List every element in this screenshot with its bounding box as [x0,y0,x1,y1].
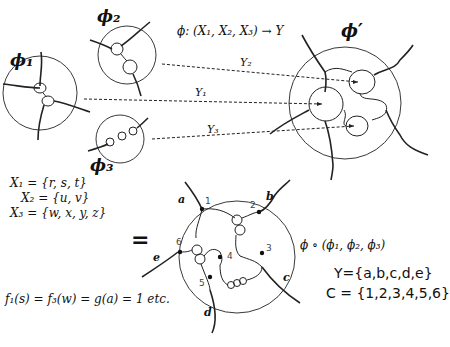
function-equation: f₁(s) = f₃(w) = g(a) = 1 etc. [5,292,170,306]
arrow-label-y3: Y₃ [207,123,219,136]
number-3: 3 [266,243,272,253]
phi-prime-disk [270,35,428,180]
phi1-label: ϕ₁ [10,50,33,70]
phi2-disk [90,22,156,96]
set-x2: X₂ = {u, v} [21,191,89,205]
c-set: C = {1,2,3,4,5,6} [326,285,450,301]
label-c: c [283,271,290,284]
label-a: a [178,193,185,206]
number-6: 6 [176,237,182,247]
composition-label: ϕ ∘ (ϕ₁, ϕ₂, ϕ₃) [300,238,385,252]
arrow-label-y1: Y₁ [195,86,207,99]
arrow-label-y2: Y₂ [240,56,252,69]
number-2: 2 [250,200,256,210]
number-1: 1 [205,196,211,206]
number-5: 5 [199,278,205,288]
set-x1: X₁ = {r, s, t} [10,176,87,190]
phi-prime-label: ϕ′ [341,20,363,41]
y-set: Y={a,b,c,d,e} [334,265,433,281]
dashed-arrows [84,64,358,139]
label-e: e [153,251,160,264]
set-x3: X₃ = {w, x, y, z} [10,206,106,220]
equals-sign: = [131,227,149,252]
label-b: b [266,190,274,203]
phi3-label: ϕ₃ [90,155,113,175]
label-d: d [204,306,212,319]
composite-nodes [178,207,264,279]
phi2-label: ϕ₂ [97,6,120,26]
mapping-equation: ϕ: (X₁, X₂, X₃) → Y [177,24,283,38]
number-4: 4 [227,251,233,261]
